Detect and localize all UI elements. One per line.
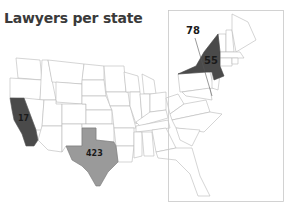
state-louisiana[interactable] <box>116 146 134 162</box>
state-wyoming[interactable] <box>56 82 82 104</box>
state-iowa[interactable] <box>106 92 130 106</box>
state-washington[interactable] <box>16 58 42 80</box>
state-arizona[interactable] <box>38 126 62 152</box>
state-michigan[interactable] <box>142 74 156 94</box>
new-york-value-label: 55 <box>204 55 218 66</box>
state-colorado[interactable] <box>62 104 86 124</box>
state-mississippi[interactable] <box>134 132 142 158</box>
state-connecticut[interactable] <box>220 58 232 66</box>
state-ohio[interactable] <box>150 92 166 112</box>
state-rhode-island[interactable] <box>232 58 238 64</box>
state-arkansas[interactable] <box>114 128 134 146</box>
state-alabama[interactable] <box>142 132 154 156</box>
state-minnesota[interactable] <box>104 66 126 92</box>
state-south-dakota[interactable] <box>82 80 106 96</box>
state-oregon[interactable] <box>10 78 42 100</box>
state-georgia[interactable] <box>152 128 176 152</box>
state-florida[interactable] <box>156 148 210 196</box>
state-utah[interactable] <box>42 100 62 126</box>
state-montana[interactable] <box>48 60 84 84</box>
california-value-label: 17 <box>18 114 29 123</box>
dc-value-label: 78 <box>186 25 200 36</box>
state-maine[interactable] <box>232 14 256 52</box>
texas-value-label: 423 <box>86 149 103 158</box>
us-map: 17 423 55 78 <box>0 0 289 207</box>
state-north-dakota[interactable] <box>82 64 104 80</box>
state-south-carolina[interactable] <box>176 128 200 146</box>
state-kansas[interactable] <box>86 110 112 124</box>
state-massachusetts[interactable] <box>220 52 244 58</box>
state-wisconsin[interactable] <box>124 72 140 92</box>
